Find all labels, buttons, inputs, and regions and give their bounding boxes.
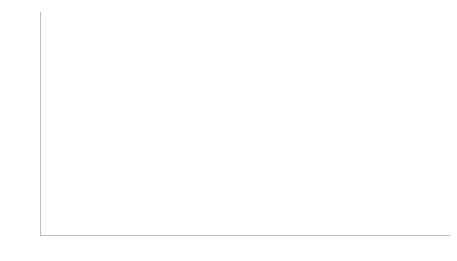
y-axis <box>40 12 41 236</box>
callout-leader-lines <box>0 0 457 261</box>
x-axis <box>40 235 450 236</box>
bar-chart <box>0 0 457 261</box>
